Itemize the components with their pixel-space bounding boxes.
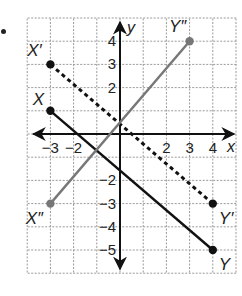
y-tick-label: 2 xyxy=(108,79,116,96)
x-tick-label: 4 xyxy=(209,139,217,156)
point-marker xyxy=(185,37,193,45)
point-label: Y′ xyxy=(219,209,234,228)
y-tick-label: −4 xyxy=(99,218,116,235)
y-tick-label: −2 xyxy=(99,171,116,188)
point-marker xyxy=(46,107,54,115)
y-axis-label: y xyxy=(126,19,136,36)
x-tick-label: 2 xyxy=(162,139,170,156)
point-label: X″ xyxy=(25,209,44,228)
point-marker xyxy=(209,199,217,207)
y-tick-label: 4 xyxy=(108,32,116,49)
point-label: X xyxy=(32,90,45,109)
point-marker xyxy=(209,246,217,254)
y-tick-label: −3 xyxy=(99,195,116,212)
y-tick-label: −5 xyxy=(99,241,116,258)
x-tick-label: −3 xyxy=(42,139,59,156)
point-label: Y″ xyxy=(169,17,187,36)
coordinate-plane: xy −3−2234432−2−3−4−5 XYX′Y′X″Y″ xyxy=(0,0,242,296)
x-axis-label: x xyxy=(226,138,236,155)
tick-labels: −3−2234432−2−3−4−5 xyxy=(42,32,217,258)
point-marker xyxy=(46,199,54,207)
y-tick-label: 3 xyxy=(108,55,116,72)
x-tick-label: −2 xyxy=(65,139,82,156)
point-marker xyxy=(46,60,54,68)
point-label: Y xyxy=(219,255,232,274)
axes: xy xyxy=(33,19,236,269)
point-label: X′ xyxy=(26,41,42,60)
x-tick-label: 3 xyxy=(185,139,193,156)
